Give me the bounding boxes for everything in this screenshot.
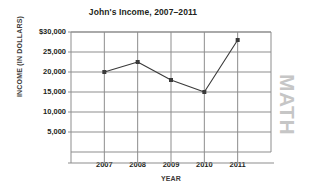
y-tick-label: 25,000 [14,47,66,56]
chart-title: John's Income, 2007–2011 [0,7,286,17]
y-tick-label: 10,000 [14,107,66,116]
grid-lines [71,32,271,152]
plot-area [71,32,271,152]
chart-figure: John's Income, 2007–2011 INCOME (IN DOLL… [0,0,324,194]
y-tick-label: $30,000 [14,27,66,36]
x-axis-label: YEAR [71,175,271,182]
math-watermark: MATH [275,74,299,164]
y-tick-label: 15,000 [14,87,66,96]
plot-svg [71,32,271,152]
y-tick-label: 20,000 [14,67,66,76]
y-tick-label: 5,000 [14,127,66,136]
